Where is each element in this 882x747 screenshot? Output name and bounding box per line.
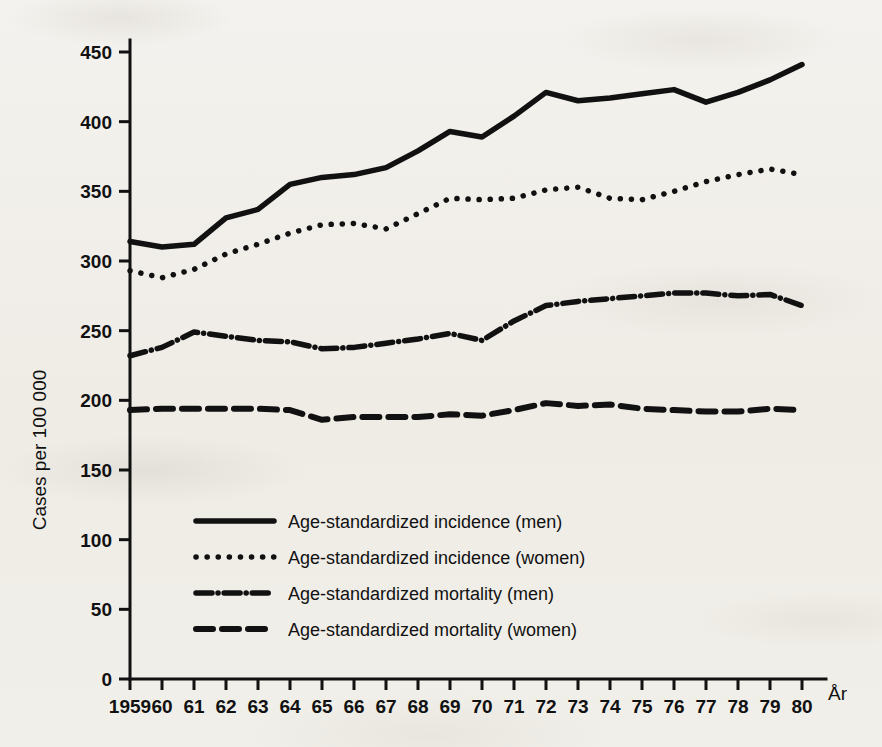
x-axis-tick-label: 63 bbox=[247, 696, 268, 717]
x-axis-tick-label: 79 bbox=[759, 696, 780, 717]
legend-label-2: Age-standardized mortality (men) bbox=[288, 584, 554, 604]
x-axis-tick-label: 76 bbox=[663, 696, 684, 717]
y-axis-tick-label: 150 bbox=[80, 460, 112, 481]
x-axis-tick-label: 69 bbox=[439, 696, 460, 717]
x-axis-tick-label: 62 bbox=[215, 696, 236, 717]
y-axis-tick-label: 300 bbox=[80, 251, 112, 272]
series-line-0 bbox=[130, 65, 802, 248]
y-axis: 050100150200250300350400450 bbox=[80, 40, 130, 690]
chart-figure: Cases per 100 000 År 0501001502002503003… bbox=[0, 0, 882, 747]
series-lines bbox=[130, 65, 802, 420]
x-axis-tick-label: 60 bbox=[151, 696, 172, 717]
line-chart: Cases per 100 000 År 0501001502002503003… bbox=[0, 0, 882, 747]
y-axis-tick-label: 50 bbox=[91, 599, 112, 620]
x-axis-tick-label: 74 bbox=[599, 696, 621, 717]
y-axis-title: Cases per 100 000 bbox=[29, 370, 50, 531]
y-axis-tick-label: 450 bbox=[80, 42, 112, 63]
y-axis-tick-label: 350 bbox=[80, 181, 112, 202]
y-axis-tick-label: 100 bbox=[80, 530, 112, 551]
series-line-3 bbox=[130, 403, 802, 420]
x-axis-tick-label: 65 bbox=[311, 696, 333, 717]
x-axis-tick-label: 73 bbox=[567, 696, 588, 717]
y-axis-tick-label: 400 bbox=[80, 112, 112, 133]
y-axis-tick-label: 250 bbox=[80, 321, 112, 342]
series-line-2 bbox=[130, 293, 802, 356]
x-axis-tick-label: 61 bbox=[183, 696, 205, 717]
y-axis-tick-label: 0 bbox=[101, 669, 112, 690]
x-axis-tick-label: 68 bbox=[407, 696, 428, 717]
x-axis-tick-label: 66 bbox=[343, 696, 364, 717]
x-axis-tick-label: 80 bbox=[791, 696, 812, 717]
series-line-1 bbox=[130, 169, 802, 278]
x-axis-tick-label: 77 bbox=[695, 696, 716, 717]
x-axis-tick-label: 64 bbox=[279, 696, 301, 717]
x-axis-tick-label: 72 bbox=[535, 696, 556, 717]
legend-label-0: Age-standardized incidence (men) bbox=[288, 512, 562, 532]
x-axis-tick-label: 71 bbox=[503, 696, 525, 717]
chart-legend: Age-standardized incidence (men)Age-stan… bbox=[196, 512, 585, 640]
x-axis-tick-label: 1959 bbox=[109, 696, 151, 717]
legend-label-3: Age-standardized mortality (women) bbox=[288, 620, 577, 640]
legend-label-1: Age-standardized incidence (women) bbox=[288, 548, 585, 568]
y-axis-tick-label: 200 bbox=[80, 390, 112, 411]
x-axis-title: År bbox=[828, 683, 848, 704]
x-axis-tick-label: 70 bbox=[471, 696, 492, 717]
x-axis-tick-label: 67 bbox=[375, 696, 396, 717]
x-axis: 1959606162636465666768697071727374757677… bbox=[109, 679, 826, 717]
x-axis-tick-label: 78 bbox=[727, 696, 748, 717]
x-axis-tick-label: 75 bbox=[631, 696, 653, 717]
